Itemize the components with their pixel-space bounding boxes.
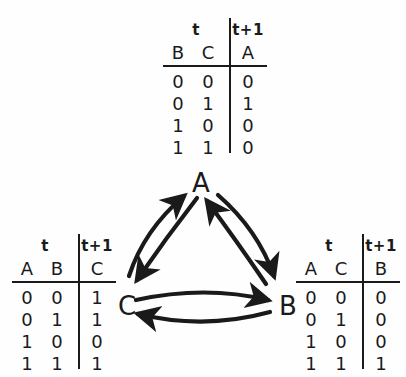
cell-input-2: 0 [193, 117, 223, 135]
edge-B-to-C [138, 312, 270, 322]
cell-input-2: 0 [42, 333, 72, 351]
time-label-now: t [12, 239, 78, 254]
table-divider-vertical [362, 234, 364, 369]
node-A: A [186, 170, 216, 196]
table-row: 1 0 0 [163, 115, 267, 137]
input-var-2: C [326, 260, 356, 278]
cell-input-2: 1 [42, 355, 72, 373]
cell-input-2: 0 [326, 333, 356, 351]
cell-input-1: 0 [12, 289, 42, 307]
output-var: A [229, 44, 267, 62]
cell-output: 0 [229, 117, 267, 135]
input-var-1: A [12, 260, 42, 278]
table-header-rule [163, 65, 267, 67]
table-row: 0 0 0 [163, 71, 267, 93]
boolean-network-figure: t t+1 B C A 0 0 0 0 1 1 1 [0, 0, 406, 377]
cell-input-2: 0 [42, 289, 72, 307]
time-label-next: t+1 [229, 23, 267, 38]
cell-input-1: 1 [296, 355, 326, 373]
cell-input-1: 1 [163, 139, 193, 157]
table-row: 1 1 1 [12, 353, 116, 375]
edge-A-to-B [218, 195, 274, 276]
table-variable-header-row: B C A [163, 38, 267, 62]
table-body: 0 0 0 0 1 1 1 0 0 1 1 0 [163, 71, 267, 159]
cell-input-1: 1 [12, 333, 42, 351]
network-diagram: A B C [100, 160, 315, 335]
edge-C-to-A [129, 196, 184, 276]
cell-input-1: 1 [12, 355, 42, 373]
input-var-2: C [193, 44, 223, 62]
time-label-now: t [163, 23, 229, 38]
table-row: 0 1 1 [163, 93, 267, 115]
cell-output: 0 [78, 333, 116, 351]
cell-input-2: 0 [326, 289, 356, 307]
input-var-1: B [163, 44, 193, 62]
cell-output: 0 [362, 333, 400, 351]
cell-input-2: 1 [193, 95, 223, 113]
cell-input-1: 0 [163, 95, 193, 113]
cell-input-1: 1 [296, 333, 326, 351]
cell-input-2: 1 [326, 355, 356, 373]
cell-output: 0 [229, 139, 267, 157]
cell-input-2: 1 [193, 139, 223, 157]
cell-input-1: 1 [163, 117, 193, 135]
output-var: B [362, 260, 400, 278]
truth-table-A: t t+1 B C A 0 0 0 0 1 1 1 [163, 16, 267, 159]
cell-output: 0 [362, 311, 400, 329]
table-divider-vertical [229, 18, 231, 153]
cell-input-1: 0 [163, 73, 193, 91]
table-row: 1 1 0 [163, 137, 267, 159]
cell-output: 1 [229, 95, 267, 113]
table-row: 1 1 1 [296, 353, 400, 375]
cell-input-1: 0 [12, 311, 42, 329]
time-label-next: t+1 [362, 239, 400, 254]
cell-output: 0 [362, 289, 400, 307]
node-C: C [112, 293, 142, 319]
cell-output: 0 [229, 73, 267, 91]
table-divider-vertical [78, 234, 80, 369]
edge-C-to-B [136, 293, 268, 301]
cell-input-2: 1 [42, 311, 72, 329]
node-B: B [273, 293, 303, 319]
table-time-header-row: t t+1 [163, 16, 267, 38]
cell-output: 1 [362, 355, 400, 373]
cell-output: 1 [78, 355, 116, 373]
cell-input-2: 0 [193, 73, 223, 91]
input-var-2: B [42, 260, 72, 278]
cell-input-2: 1 [326, 311, 356, 329]
